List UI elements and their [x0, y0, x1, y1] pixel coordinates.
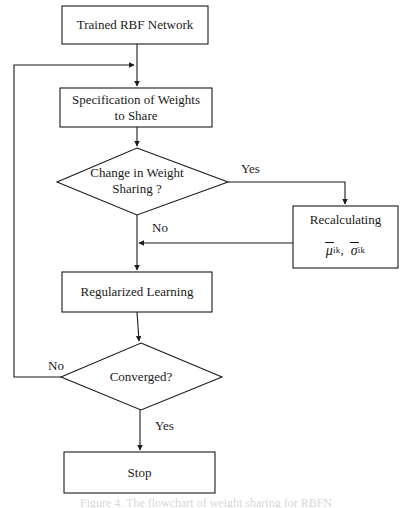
- edge-label-change-no: No: [152, 220, 168, 236]
- edge-change-yes-to-recalculating: [228, 182, 345, 204]
- node-start-shape: [62, 6, 208, 44]
- flowchart-canvas: [0, 0, 412, 508]
- figure-caption: Figure 4. The flowchart of weight sharin…: [0, 496, 412, 508]
- node-specification-shape: [60, 88, 212, 127]
- flowchart-figure: Trained RBF Network Specification of Wei…: [0, 0, 412, 508]
- node-change-decision-shape: [57, 148, 228, 215]
- node-stop-shape: [64, 452, 215, 493]
- edge-label-converged-yes: Yes: [155, 418, 174, 434]
- node-recalculating-shape: [293, 206, 398, 268]
- edge-label-converged-no: No: [48, 358, 64, 374]
- node-converged-decision-shape: [61, 343, 222, 410]
- edge-regularized-to-converged: [137, 312, 139, 341]
- edge-label-change-yes: Yes: [241, 161, 260, 177]
- node-regularized-shape: [62, 272, 212, 312]
